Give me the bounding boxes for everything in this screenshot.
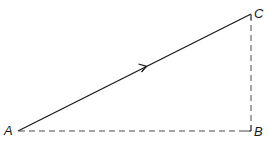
point-a-label: A	[4, 124, 13, 137]
point-b-label: B	[254, 125, 263, 138]
vector-diagram: A B C	[0, 0, 270, 143]
right-angle-marker	[245, 125, 251, 131]
vector-ac-line	[18, 14, 251, 131]
point-c-label: C	[254, 7, 263, 20]
diagram-svg	[0, 0, 270, 143]
